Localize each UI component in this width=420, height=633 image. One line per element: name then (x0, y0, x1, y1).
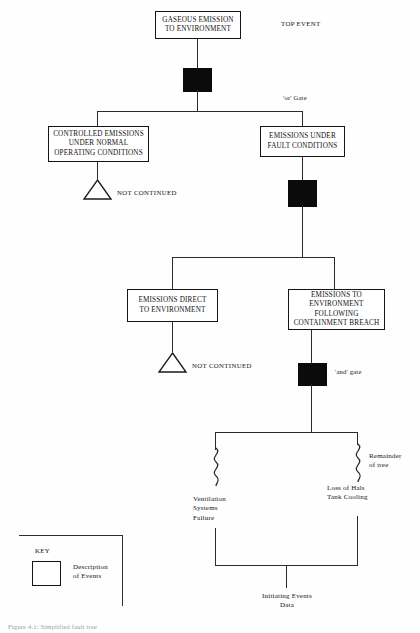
event-box-top-event[interactable]: GASEOUS EMISSION TO ENVIRONMENT (155, 11, 241, 39)
connector-split-level1 (97, 111, 303, 112)
label-and-gate: 'and' gate (335, 368, 362, 377)
basic-event-label-ventilation: Ventilation Systems Failure (193, 495, 226, 523)
connector-initiating-events-stem (286, 565, 287, 588)
connector-drop-breach (334, 257, 335, 290)
gate-or-1[interactable] (183, 68, 212, 92)
connector-drop-fault (302, 111, 303, 126)
key-panel-right-border (122, 535, 123, 606)
connector-drop-direct (172, 257, 173, 290)
connector-drop-controlled (97, 111, 98, 126)
connector-gate1-down (197, 90, 198, 112)
fault-tree-diagram: GASEOUS EMISSION TO ENVIRONMENT TOP EVEN… (0, 0, 420, 633)
label-not-continued-lower: NOT CONTINUED (192, 361, 252, 370)
figure-caption: Figure 4.1: Simplified fault tree (8, 623, 97, 630)
connector-split-level3 (215, 432, 358, 433)
event-box-emissions-under-fault[interactable]: EMISSIONS UNDER FAULT CONDITIONS (260, 126, 345, 157)
connector-fault-to-gate2 (302, 157, 303, 180)
gate-and-3[interactable] (298, 363, 327, 386)
squiggle-break-ventilation (207, 448, 225, 486)
connector-split-level2 (172, 257, 335, 258)
connector-gate2-down (302, 205, 303, 258)
connector-gate3-down (311, 384, 312, 433)
triangle-not-continued-upper[interactable] (83, 179, 112, 200)
key-legend-description: Description of Events (73, 563, 108, 582)
label-top-event: TOP EVENT (281, 19, 321, 28)
connector-direct-to-triangle (172, 322, 173, 352)
event-box-emissions-direct[interactable]: EMISSIONS DIRECT TO ENVIRONMENT (127, 289, 218, 322)
label-not-continued-upper: NOT CONTINUED (117, 188, 177, 197)
key-panel-top-border (19, 535, 123, 536)
event-box-emissions-containment-breach[interactable]: EMISSIONS TO ENVIRONMENT FOLLOWING CONTA… (288, 289, 385, 330)
basic-event-label-hals: Loss of Hals Tank Cooling (327, 484, 368, 503)
gate-or-2[interactable] (288, 180, 317, 207)
connector-top-to-gate1 (197, 39, 198, 68)
key-legend-event-box (32, 561, 61, 586)
triangle-not-continued-lower[interactable] (158, 352, 187, 373)
connector-controlled-to-triangle (97, 162, 98, 179)
label-or-gate: 'or' Gate (283, 94, 307, 103)
connector-ventilation-down (215, 528, 216, 566)
connector-hals-down (357, 516, 358, 566)
key-title: KEY (35, 546, 50, 555)
squiggle-break-hals (349, 444, 367, 482)
connector-breach-to-gate3 (311, 330, 312, 363)
label-remainder-of-tree: Remainder of tree (369, 452, 402, 471)
label-initiating-events-data: Initiating Events Data (258, 592, 316, 611)
event-box-controlled-emissions[interactable]: CONTROLLED EMISSIONS UNDER NORMAL OPERAT… (48, 126, 149, 162)
